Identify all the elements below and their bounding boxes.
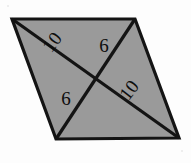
rhombus-diagram: 10 6 6 10 [0,0,191,163]
length-label-lower-left: 6 [61,88,71,109]
scan-speck-top-left [7,5,9,7]
length-label-upper-right: 6 [99,35,109,56]
geometry-figure: 10 6 6 10 [0,0,191,163]
scan-speck-bottom-right [181,150,183,152]
